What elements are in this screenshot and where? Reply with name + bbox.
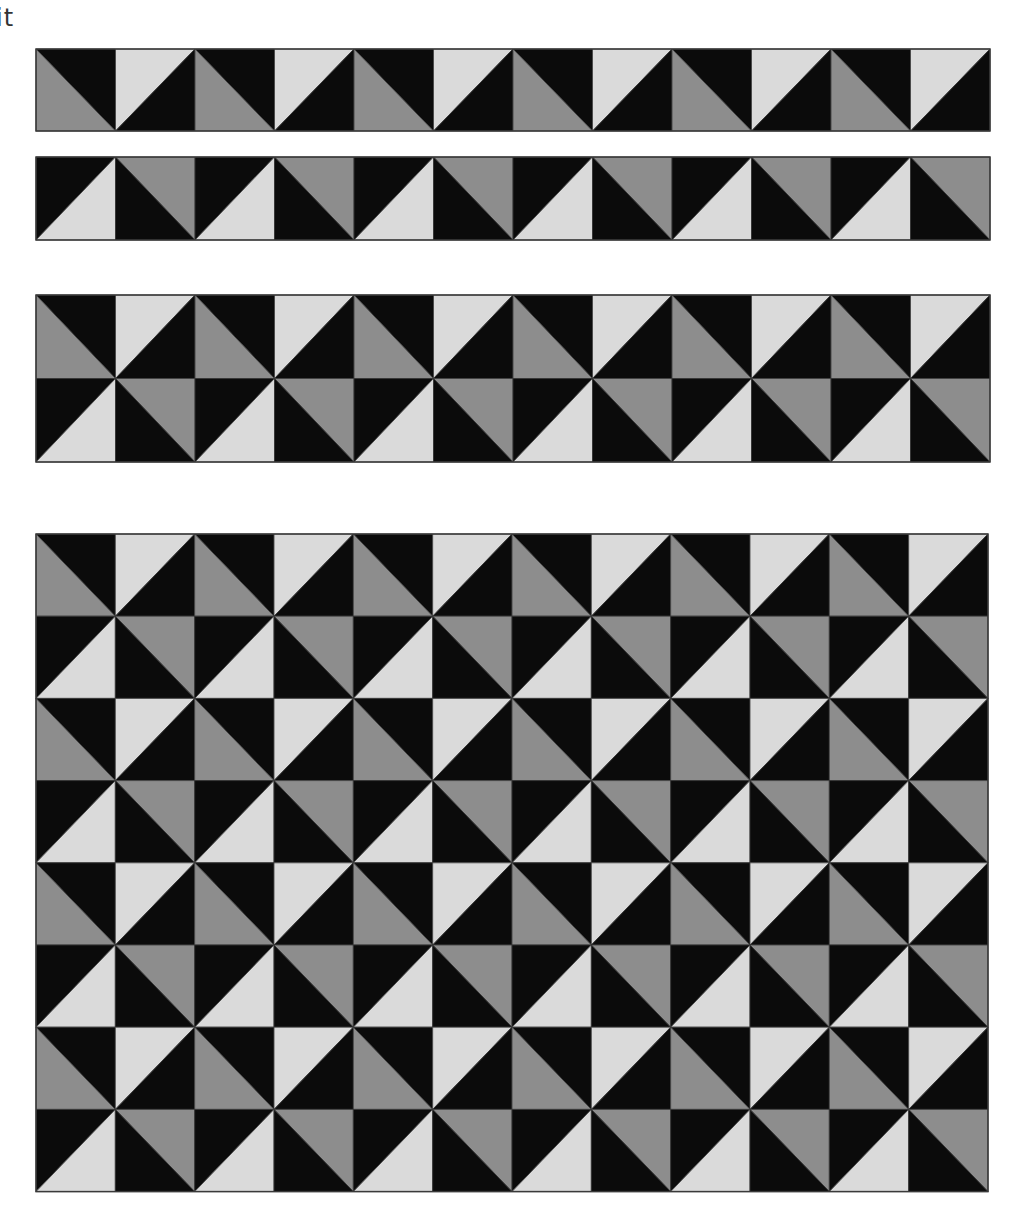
tile-a2 [274, 863, 353, 945]
tile-a1 [195, 863, 274, 945]
tile-b1 [829, 945, 908, 1027]
tile-a1 [512, 534, 591, 616]
tile-b2 [275, 157, 355, 240]
tile-b1 [513, 379, 593, 463]
tile-a1 [195, 1027, 274, 1109]
tile-b2 [750, 616, 829, 698]
tile-a1 [354, 295, 434, 379]
tile-b2 [752, 379, 832, 463]
tile-a1 [512, 863, 591, 945]
strip-two-rows-svg [36, 295, 990, 462]
tile-a2 [115, 863, 194, 945]
tile-a1 [671, 863, 750, 945]
tile-b2 [274, 781, 353, 863]
tile-a2 [433, 534, 512, 616]
tile-b1 [36, 1109, 115, 1191]
strip-row-b-svg [36, 157, 990, 240]
tile-a1 [195, 49, 275, 131]
tile-b2 [275, 379, 355, 463]
tile-a2 [275, 295, 355, 379]
tile-a1 [829, 534, 908, 616]
strip-two-rows [36, 295, 990, 462]
tile-b2 [434, 157, 514, 240]
tile-a2 [116, 49, 196, 131]
tile-b1 [512, 616, 591, 698]
tile-a1 [513, 49, 593, 131]
tile-b2 [274, 945, 353, 1027]
tile-b1 [829, 781, 908, 863]
tile-a2 [591, 534, 670, 616]
tile-a2 [593, 49, 673, 131]
tile-a1 [829, 1027, 908, 1109]
tile-b1 [512, 945, 591, 1027]
tile-b1 [353, 945, 432, 1027]
tile-b1 [195, 616, 274, 698]
tile-a2 [274, 1027, 353, 1109]
tile-a2 [116, 295, 196, 379]
tile-a1 [513, 295, 593, 379]
tile-b1 [831, 379, 911, 463]
tile-b1 [672, 379, 752, 463]
tile-b2 [593, 157, 673, 240]
tile-b1 [36, 379, 116, 463]
tile-b2 [115, 616, 194, 698]
full-quilt-grid [36, 534, 988, 1192]
tile-a1 [353, 863, 432, 945]
tile-b2 [911, 379, 991, 463]
tile-a2 [911, 295, 991, 379]
tile-a2 [434, 49, 514, 131]
tile-a2 [591, 698, 670, 780]
tile-a1 [671, 534, 750, 616]
strip-row-a [36, 49, 990, 131]
tile-b1 [353, 781, 432, 863]
tile-a1 [671, 698, 750, 780]
tile-a1 [195, 698, 274, 780]
tile-a1 [354, 49, 434, 131]
strip-row-a-svg [36, 49, 990, 131]
tile-a2 [433, 863, 512, 945]
tile-a2 [752, 295, 832, 379]
tile-a2 [750, 534, 829, 616]
tile-a2 [274, 698, 353, 780]
tile-b1 [671, 781, 750, 863]
tile-a2 [911, 49, 991, 131]
tile-b1 [829, 1109, 908, 1191]
tile-a2 [591, 1027, 670, 1109]
tile-b2 [750, 945, 829, 1027]
tile-b1 [354, 379, 434, 463]
full-quilt-grid-svg [36, 534, 988, 1192]
tile-b2 [433, 616, 512, 698]
tile-a2 [752, 49, 832, 131]
strip-row-b [36, 157, 990, 240]
tile-a1 [672, 295, 752, 379]
tile-b2 [752, 157, 832, 240]
tile-b1 [354, 157, 434, 240]
tile-b2 [591, 781, 670, 863]
tile-b1 [831, 157, 911, 240]
tile-a2 [909, 698, 988, 780]
tile-a2 [750, 863, 829, 945]
tile-a2 [750, 698, 829, 780]
tile-b2 [909, 781, 988, 863]
tile-a1 [353, 698, 432, 780]
tile-b2 [115, 1109, 194, 1191]
tile-a2 [433, 698, 512, 780]
tile-a2 [115, 698, 194, 780]
tile-a1 [36, 49, 116, 131]
tile-a1 [829, 863, 908, 945]
tile-b1 [671, 616, 750, 698]
tile-a1 [512, 1027, 591, 1109]
tile-b2 [591, 1109, 670, 1191]
tile-b1 [195, 157, 275, 240]
tile-a2 [909, 863, 988, 945]
tile-a1 [512, 698, 591, 780]
tile-b1 [672, 157, 752, 240]
tile-b1 [195, 379, 275, 463]
tile-b1 [195, 1109, 274, 1191]
tile-b2 [591, 616, 670, 698]
tile-a2 [115, 1027, 194, 1109]
tile-a2 [591, 863, 670, 945]
tile-a1 [671, 1027, 750, 1109]
tile-a2 [274, 534, 353, 616]
tile-a1 [36, 698, 115, 780]
